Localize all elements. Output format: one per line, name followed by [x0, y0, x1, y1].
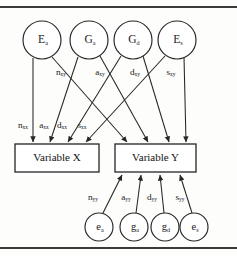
- path-label-sxx: sxx: [78, 120, 87, 130]
- path-label-dxx: dxx: [57, 120, 67, 130]
- figure-root: Variable XVariable Y EaGaGdEseagagdes nx…: [0, 0, 237, 256]
- path-label-nxx: nxx: [18, 120, 28, 130]
- residual-path-to-y-nyy: [103, 175, 122, 213]
- path-label-nxy: nxy: [56, 67, 66, 77]
- cross-path-to-y-dxy: [143, 56, 169, 142]
- path-diagram: Variable XVariable Y EaGaGdEseagagdes nx…: [0, 0, 237, 256]
- box-variable-x-label: Variable X: [33, 151, 80, 163]
- residual-path-to-y-dyy: [160, 175, 164, 213]
- variable-boxes-group: Variable XVariable Y: [15, 144, 196, 172]
- latent-nodes-group: EaGaGdEseagagdes: [23, 21, 208, 241]
- residual-path-to-y-ayy: [136, 175, 141, 213]
- cross-path-to-y-axy: [100, 56, 148, 142]
- path-label-syy: syy: [176, 192, 185, 202]
- path-label-axx: axx: [39, 120, 49, 130]
- path-label-sxy: sxy: [167, 67, 176, 77]
- cross-path-to-y-sxy: [184, 57, 186, 142]
- box-variable-y-label: Variable Y: [132, 151, 179, 163]
- path-label-ayy: ayy: [121, 192, 131, 202]
- residual-path-to-y-syy: [180, 175, 192, 213]
- path-lines-group: [33, 56, 192, 213]
- path-label-dyy: dyy: [147, 192, 157, 202]
- path-label-axy: axy: [95, 67, 105, 77]
- path-label-dxy: dxy: [130, 67, 140, 77]
- path-label-nyy: nyy: [88, 192, 98, 202]
